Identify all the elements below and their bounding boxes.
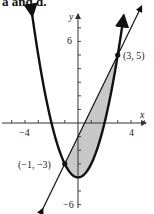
y-tick-label-neg6: −6 <box>63 199 74 210</box>
point-label-3-5: (3, 5) <box>123 50 145 62</box>
x-tick-label-neg4: −4 <box>19 127 30 138</box>
y-axis-label: y <box>68 11 74 22</box>
graph: x y −4 4 6 −6 (−1, −3) (3, 5) <box>0 0 154 214</box>
shaded-region <box>65 55 118 177</box>
point-3-5 <box>115 52 120 57</box>
line-curve <box>43 6 142 209</box>
y-tick-label-6: 6 <box>67 35 72 46</box>
x-axis-label: x <box>139 109 145 120</box>
point-label-neg1-neg3: (−1, −3) <box>18 159 51 171</box>
x-tick-label-4: 4 <box>129 127 134 138</box>
point-neg1-neg3 <box>62 161 67 166</box>
